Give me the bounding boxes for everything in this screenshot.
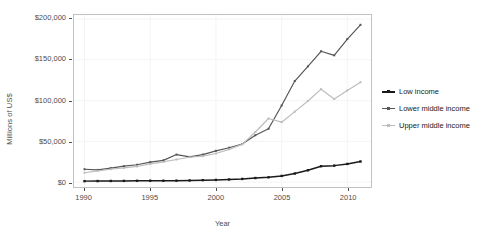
data-point <box>280 175 282 177</box>
data-point <box>346 89 348 91</box>
data-point <box>333 54 335 56</box>
data-point <box>110 168 112 170</box>
data-point <box>175 179 177 181</box>
data-point <box>320 165 322 167</box>
data-point <box>294 111 296 113</box>
series-upper-middle-income <box>84 81 362 173</box>
y-tick-mark <box>69 142 72 143</box>
x-tick-mark <box>216 188 217 191</box>
data-point <box>96 180 98 182</box>
data-point <box>202 179 204 181</box>
data-point <box>123 167 125 169</box>
data-point <box>84 168 86 170</box>
data-point <box>123 165 125 167</box>
data-point <box>359 160 361 162</box>
chart-legend: Low incomeLower middle incomeUpper middl… <box>382 85 470 132</box>
legend-key-icon <box>382 102 395 115</box>
series-low-income <box>83 160 361 182</box>
data-point <box>307 169 309 171</box>
data-series-layer <box>74 15 371 187</box>
x-tick-mark <box>84 188 85 191</box>
data-point <box>333 164 335 166</box>
data-point <box>202 155 204 157</box>
data-point <box>254 131 256 133</box>
data-point <box>84 172 86 174</box>
chart-figure: Millions of US$ $0$50,000$100,000$150,00… <box>0 0 487 238</box>
y-tick-label: $150,000 <box>0 54 66 63</box>
x-tick-label: 1990 <box>75 193 92 202</box>
data-point <box>162 161 164 163</box>
legend-key-point <box>387 107 390 110</box>
y-tick-mark <box>69 183 72 184</box>
data-point <box>215 179 217 181</box>
legend-key-point <box>387 124 390 127</box>
x-axis-title: Year <box>73 219 372 228</box>
data-point <box>254 134 256 136</box>
data-point <box>241 178 243 180</box>
data-point <box>346 163 348 165</box>
y-tick-mark <box>69 59 72 60</box>
data-point <box>320 88 322 90</box>
data-point <box>359 24 361 26</box>
y-tick-label: $0 <box>0 178 66 187</box>
data-point <box>136 165 138 167</box>
data-point <box>188 179 190 181</box>
legend-item-label: Lower middle income <box>399 104 470 113</box>
x-tick-label: 1995 <box>141 193 158 202</box>
data-point <box>123 180 125 182</box>
x-tick-label: 2000 <box>208 193 225 202</box>
series-line <box>85 161 361 181</box>
y-tick-label: $200,000 <box>0 13 66 22</box>
series-line <box>85 25 361 170</box>
y-axis-title: Millions of US$ <box>0 0 18 238</box>
data-point <box>149 161 151 163</box>
data-point <box>149 180 151 182</box>
x-tick-mark <box>348 188 349 191</box>
data-point <box>281 104 283 106</box>
data-point <box>110 180 112 182</box>
data-point <box>294 80 296 82</box>
legend-item-upper-middle-income[interactable]: Upper middle income <box>382 119 470 132</box>
plot-panel <box>73 14 372 188</box>
data-point <box>149 163 151 165</box>
data-point <box>228 178 230 180</box>
x-tick-mark <box>282 188 283 191</box>
y-tick-mark <box>69 18 72 19</box>
data-point <box>136 180 138 182</box>
legend-key-point <box>387 90 390 93</box>
x-tick-label: 2005 <box>274 193 291 202</box>
legend-item-label: Low income <box>399 87 439 96</box>
data-point <box>176 159 178 161</box>
data-point <box>228 148 230 150</box>
data-point <box>215 150 217 152</box>
y-tick-label: $50,000 <box>0 137 66 146</box>
x-tick-mark <box>150 188 151 191</box>
data-point <box>254 177 256 179</box>
data-point <box>97 170 99 172</box>
series-lower-middle-income <box>84 24 362 171</box>
legend-key-icon <box>382 119 395 132</box>
data-point <box>320 50 322 52</box>
y-tick-label: $100,000 <box>0 96 66 105</box>
data-point <box>162 180 164 182</box>
data-point <box>215 153 217 155</box>
legend-item-low-income[interactable]: Low income <box>382 85 470 98</box>
data-point <box>281 121 283 123</box>
data-point <box>268 118 270 120</box>
data-point <box>83 180 85 182</box>
data-point <box>333 98 335 100</box>
data-point <box>346 38 348 40</box>
data-point <box>359 81 361 83</box>
data-point <box>176 154 178 156</box>
legend-item-lower-middle-income[interactable]: Lower middle income <box>382 102 470 115</box>
data-point <box>241 143 243 145</box>
series-line <box>85 82 361 172</box>
data-point <box>267 176 269 178</box>
legend-item-label: Upper middle income <box>399 121 470 130</box>
legend-key-icon <box>382 85 395 98</box>
data-point <box>268 128 270 130</box>
data-point <box>294 172 296 174</box>
data-point <box>307 100 309 102</box>
x-tick-label: 2010 <box>340 193 357 202</box>
data-point <box>136 164 138 166</box>
